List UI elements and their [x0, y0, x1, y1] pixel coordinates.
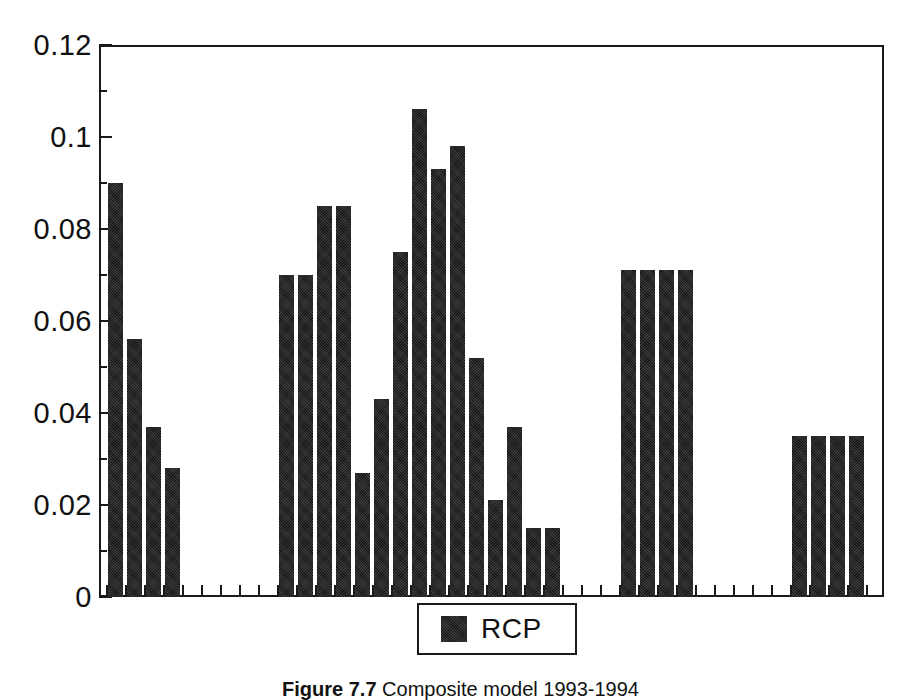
bar — [678, 270, 693, 597]
bar — [298, 275, 313, 597]
bar — [336, 206, 351, 597]
bar — [621, 270, 636, 597]
bar — [374, 399, 389, 597]
bar — [412, 109, 427, 597]
y-axis-tick-label: 0 — [75, 581, 92, 614]
figure-caption-label: Figure 7.7 — [282, 678, 376, 700]
bar — [431, 169, 446, 597]
legend-label-rcp: RCP — [481, 613, 542, 645]
bar — [393, 252, 408, 597]
bar — [830, 436, 845, 597]
bar — [279, 275, 294, 597]
y-axis-tick-label: 0.1 — [50, 121, 92, 154]
y-axis-tick-label: 0.12 — [34, 29, 92, 62]
bar — [108, 183, 123, 597]
bar — [127, 339, 142, 597]
bar — [545, 528, 560, 597]
bar — [469, 358, 484, 597]
chart-legend: RCP — [417, 603, 577, 655]
bar — [792, 436, 807, 597]
figure-caption-text: Composite model 1993-1994 — [377, 678, 639, 700]
bar — [165, 468, 180, 597]
bar — [811, 436, 826, 597]
y-axis-label-group: 00.020.040.060.080.10.12 — [0, 45, 92, 597]
bar — [488, 500, 503, 597]
bar — [450, 146, 465, 597]
figure-container: 00.020.040.060.080.10.12 RCP Figure 7.7 … — [0, 0, 921, 700]
y-axis-tick-label: 0.08 — [34, 213, 92, 246]
y-axis-tick-label: 0.02 — [34, 489, 92, 522]
bar — [849, 436, 864, 597]
legend-swatch-rcp — [441, 616, 467, 642]
bar — [317, 206, 332, 597]
bar — [507, 427, 522, 597]
y-axis-tick-label: 0.06 — [34, 305, 92, 338]
bar — [355, 473, 370, 597]
bar — [640, 270, 655, 597]
bar — [146, 427, 161, 597]
y-axis-tick-label: 0.04 — [34, 397, 92, 430]
figure-caption: Figure 7.7 Composite model 1993-1994 — [0, 678, 921, 700]
bar — [659, 270, 674, 597]
bar — [526, 528, 541, 597]
bar-series-rcp — [99, 45, 884, 597]
